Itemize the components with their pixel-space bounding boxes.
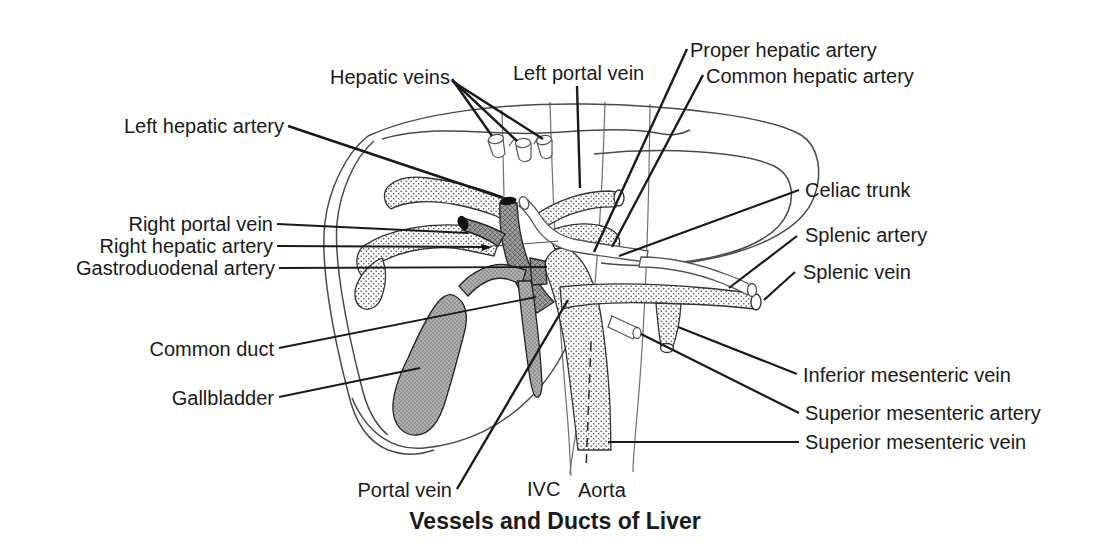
label-superior-mesenteric-artery: Superior mesenteric artery (805, 402, 1041, 424)
label-inferior-mesenteric-vein: Inferior mesenteric vein (803, 364, 1011, 386)
label-ivc: IVC (527, 478, 560, 500)
label-gallbladder: Gallbladder (172, 387, 275, 409)
label-hepatic-veins: Hepatic veins (330, 66, 450, 88)
label-aorta: Aorta (578, 479, 627, 501)
label-right-portal-vein: Right portal vein (128, 213, 273, 235)
right-portal-branch-upper (384, 177, 516, 222)
liver-vessels-figure: Hepatic veins Left portal vein Proper he… (0, 0, 1106, 559)
label-left-portal-vein: Left portal vein (513, 62, 644, 84)
inferior-mesenteric-vein-vessel (656, 303, 681, 349)
label-celiac-trunk: Celiac trunk (805, 179, 912, 201)
label-splenic-vein: Splenic vein (803, 261, 911, 283)
label-proper-hepatic-artery: Proper hepatic artery (690, 39, 877, 61)
label-common-hepatic-artery: Common hepatic artery (706, 65, 914, 87)
gastroduodenal-artery-vessel (530, 258, 547, 285)
label-splenic-artery: Splenic artery (805, 224, 927, 246)
label-superior-mesenteric-vein: Superior mesenteric vein (805, 431, 1026, 453)
figure-title: Vessels and Ducts of Liver (409, 508, 701, 534)
superior-mesenteric-vein-vessel (545, 248, 611, 450)
left-portal-vein-vessel (534, 191, 617, 227)
label-gastroduodenal-artery: Gastroduodenal artery (76, 257, 275, 279)
gallbladder-shape (393, 295, 466, 435)
cystic-duct-vessel (459, 264, 526, 296)
label-common-duct: Common duct (150, 338, 275, 360)
biliary-system (393, 264, 542, 435)
label-right-hepatic-artery: Right hepatic artery (100, 235, 273, 257)
label-left-hepatic-artery: Left hepatic artery (124, 115, 284, 137)
diagram-svg: Hepatic veins Left portal vein Proper he… (0, 0, 1106, 559)
label-portal-vein: Portal vein (358, 479, 453, 501)
